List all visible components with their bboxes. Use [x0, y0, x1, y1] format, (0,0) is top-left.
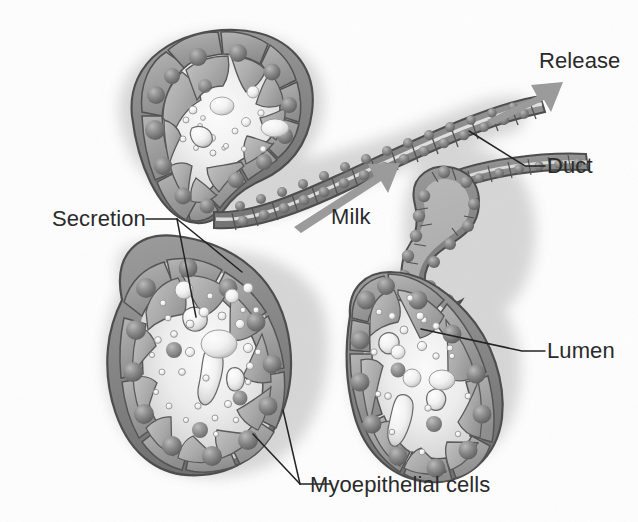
label-lumen: Lumen [547, 340, 615, 362]
label-myoepithelial-cells: Myoepithelial cells [310, 474, 490, 496]
label-release: Release [539, 50, 620, 72]
label-duct: Duct [547, 155, 593, 177]
alveolus-illustration [0, 0, 638, 522]
figure-canvas: Release Duct Milk Secretion Lumen Myoepi… [0, 0, 638, 522]
label-secretion: Secretion [52, 208, 146, 230]
label-milk: Milk [331, 206, 371, 228]
